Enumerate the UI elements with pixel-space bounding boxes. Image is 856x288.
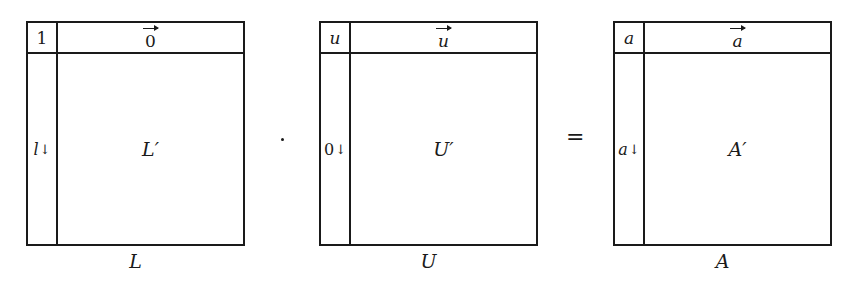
vector-arrow-icon: a bbox=[732, 25, 742, 51]
corner-value: a bbox=[624, 28, 634, 48]
row-vector-value: a bbox=[732, 31, 742, 51]
matrix-U: u u 0↓ U′ bbox=[319, 21, 538, 246]
submatrix-cell: A′ bbox=[645, 54, 830, 244]
multiply-dot-icon bbox=[281, 138, 284, 141]
matrix-caption-U: U bbox=[319, 250, 538, 272]
corner-value: u bbox=[330, 28, 341, 48]
column-vector-cell: a↓ bbox=[615, 54, 643, 244]
column-value: a bbox=[618, 140, 628, 159]
corner-value: 1 bbox=[37, 28, 48, 48]
equals-sign: = bbox=[566, 124, 584, 149]
submatrix-cell: U′ bbox=[351, 54, 536, 244]
row-vector-cell: 0 bbox=[58, 23, 243, 52]
down-arrow-icon: ↓ bbox=[335, 142, 346, 157]
matrix-A: a a a↓ A′ bbox=[613, 21, 832, 246]
column-vector-cell: 0↓ bbox=[321, 54, 349, 244]
corner-cell: u bbox=[321, 23, 349, 52]
submatrix-label: L′ bbox=[142, 138, 159, 160]
submatrix-label: A′ bbox=[728, 138, 746, 160]
column-vector-cell: l↓ bbox=[28, 54, 56, 244]
matrix-caption-L: L bbox=[26, 250, 245, 272]
submatrix-label: U′ bbox=[433, 138, 453, 160]
matrix-caption-A: A bbox=[613, 250, 832, 272]
row-vector-cell: a bbox=[645, 23, 830, 52]
vector-arrow-icon: 0 bbox=[145, 25, 156, 51]
matrix-L: 1 0 l↓ L′ bbox=[26, 21, 245, 246]
row-vector-value: 0 bbox=[145, 31, 156, 51]
column-value: l bbox=[33, 140, 38, 159]
corner-cell: a bbox=[615, 23, 643, 52]
vector-arrow-icon: u bbox=[438, 25, 449, 51]
down-arrow-icon: ↓ bbox=[629, 142, 640, 157]
corner-cell: 1 bbox=[28, 23, 56, 52]
row-vector-value: u bbox=[438, 31, 449, 51]
column-value: 0 bbox=[324, 140, 334, 159]
down-arrow-icon: ↓ bbox=[40, 142, 51, 157]
submatrix-cell: L′ bbox=[58, 54, 243, 244]
row-vector-cell: u bbox=[351, 23, 536, 52]
